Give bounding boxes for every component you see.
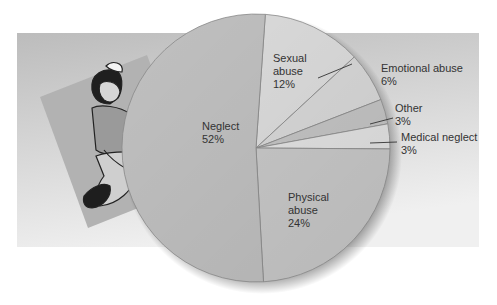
label-neglect: Neglect 52% bbox=[202, 120, 239, 146]
label-medical-neglect: Medical neglect 3% bbox=[401, 131, 477, 157]
chart-figure: Sexual abuse 12% Emotional abuse 6% Othe… bbox=[0, 0, 497, 305]
pie-shading bbox=[122, 14, 390, 282]
label-sexual-abuse: Sexual abuse 12% bbox=[273, 52, 307, 91]
label-physical-abuse: Physical abuse 24% bbox=[288, 191, 329, 230]
label-other: Other 3% bbox=[395, 102, 423, 128]
label-emotional-abuse: Emotional abuse 6% bbox=[381, 62, 463, 88]
